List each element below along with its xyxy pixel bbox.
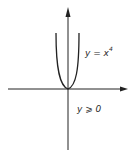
y-axis-arrow-icon (66, 7, 71, 17)
exponent-label: 4 (109, 45, 113, 52)
x-axis-arrow-icon (120, 87, 128, 92)
graph-canvas: y = x4 y ⩾ 0 (0, 0, 132, 152)
range-label: y ⩾ 0 (76, 104, 102, 114)
curve-label: y = x4 (84, 45, 113, 58)
